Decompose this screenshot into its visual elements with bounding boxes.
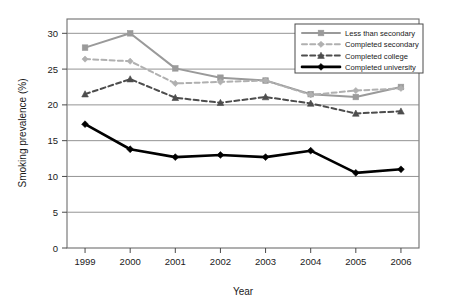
y-tick-label: 0 (53, 243, 58, 254)
y-tick-label: 5 (53, 207, 58, 218)
x-tick-label: 2005 (345, 256, 366, 267)
x-tick-label: 2002 (210, 256, 231, 267)
y-tick-label: 15 (47, 135, 58, 146)
y-tick-label: 20 (47, 99, 58, 110)
y-axis-title: Smoking prevalence (%) (17, 79, 28, 188)
data-point-marker (318, 30, 324, 36)
x-tick-label: 2004 (300, 256, 321, 267)
legend-label: Less than secondary (345, 29, 415, 38)
y-tick-label: 30 (47, 28, 58, 39)
data-point-marker (82, 45, 88, 51)
y-tick-label: 10 (47, 171, 58, 182)
data-point-marker (173, 66, 179, 72)
legend-label: Completed college (345, 52, 408, 61)
y-tick-label: 25 (47, 64, 58, 75)
data-point-marker (127, 31, 133, 37)
x-tick-label: 1999 (74, 256, 95, 267)
legend-label: Completed secondary (345, 40, 419, 49)
x-tick-label: 2000 (120, 256, 141, 267)
x-tick-label: 2006 (390, 256, 411, 267)
chart-legend: Less than secondaryCompleted secondaryCo… (295, 24, 423, 73)
chart-figure: 051015202530 199920002001200220032004200… (0, 0, 463, 307)
data-point-marker (353, 94, 359, 100)
x-axis-title: Year (233, 286, 254, 297)
legend-label: Completed university (345, 63, 416, 72)
smoking-prevalence-line-chart: 051015202530 199920002001200220032004200… (0, 0, 463, 307)
x-tick-label: 2001 (165, 256, 186, 267)
x-tick-label: 2003 (255, 256, 276, 267)
